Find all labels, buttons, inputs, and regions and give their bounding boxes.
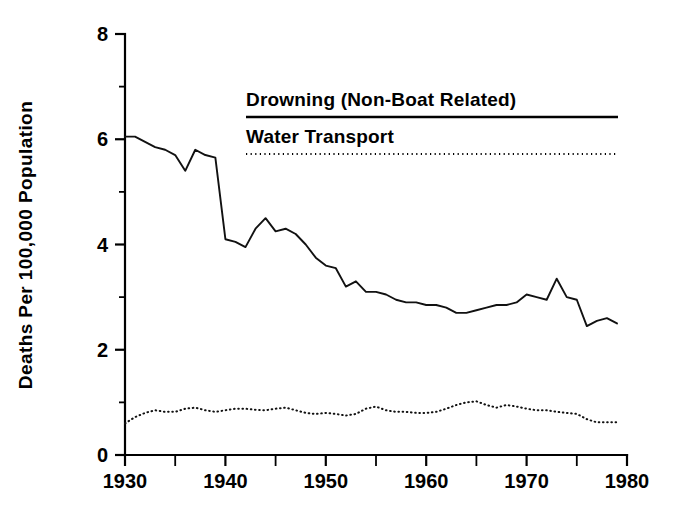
y-axis-tick-labels: 02468 [97,23,109,466]
series-line-drowning [125,137,617,326]
y-tick-label: 6 [97,128,108,150]
legend-label-drowning: Drowning (Non-Boat Related) [246,89,516,110]
chart-legend: Drowning (Non-Boat Related) Water Transp… [246,89,618,154]
x-tick-label: 1970 [504,470,549,492]
chart-series-group [125,137,617,424]
line-chart: 02468 193019401950196019701980 Deaths Pe… [0,0,685,518]
x-tick-label: 1950 [304,470,349,492]
x-axis-tick-labels: 193019401950196019701980 [103,470,650,492]
y-tick-label: 0 [97,444,108,466]
chart-figure: 02468 193019401950196019701980 Deaths Pe… [0,0,685,518]
legend-label-water-transport: Water Transport [246,126,394,147]
x-tick-label: 1930 [103,470,148,492]
y-tick-label: 8 [97,23,108,45]
y-axis-title: Deaths Per 100,000 Population [15,101,36,389]
series-line-water-transport [125,401,617,423]
x-tick-label: 1980 [605,470,650,492]
y-tick-label: 2 [97,339,108,361]
x-tick-label: 1960 [404,470,449,492]
x-tick-label: 1940 [203,470,248,492]
y-tick-label: 4 [97,234,109,256]
